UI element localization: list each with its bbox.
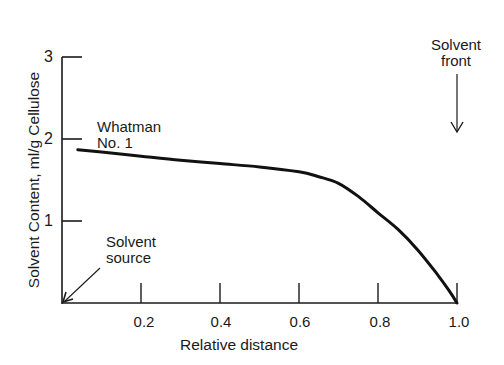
- solvent-source-line2: source: [106, 249, 151, 266]
- x-tick-label-0.4: 0.4: [211, 313, 232, 330]
- x-tick-label-0.6: 0.6: [290, 313, 311, 330]
- solvent-source-arrow: [65, 268, 100, 301]
- series-label-line1: Whatman: [97, 118, 161, 135]
- whatman-curve: [78, 150, 457, 303]
- solvent-source-arrowhead: [63, 292, 73, 302]
- solvent-source-line1: Solvent: [106, 233, 156, 250]
- x-tick-label-0.2: 0.2: [134, 313, 155, 330]
- x-axis-label: Relative distance: [180, 336, 298, 353]
- y-tick-label-3: 3: [44, 48, 53, 65]
- solvent-front-line1: Solvent: [420, 36, 492, 53]
- series-label-line2: No. 1: [97, 134, 133, 151]
- x-tick-label-1.0: 1.0: [449, 313, 470, 330]
- solvent-front-line2: front: [420, 52, 492, 69]
- y-tick-label-2: 2: [44, 130, 53, 147]
- y-axis-label: Solvent Content, ml/g Cellulose: [25, 72, 43, 288]
- y-tick-label-1: 1: [44, 212, 53, 229]
- x-tick-label-0.8: 0.8: [370, 313, 391, 330]
